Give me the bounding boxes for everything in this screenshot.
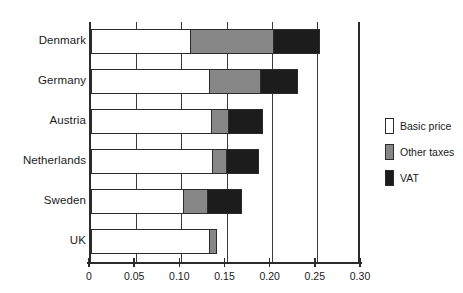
stacked-bar[interactable] (91, 29, 320, 54)
bar-row (91, 22, 358, 62)
y-axis-label-denmark: Denmark (2, 34, 86, 46)
x-axis-tick-label: 0.20 (259, 270, 279, 282)
legend-item[interactable]: Other taxes (385, 139, 463, 165)
x-axis-tick-label: 0.30 (350, 270, 370, 282)
bar-segment-basic-price (91, 109, 212, 134)
bar-row (91, 102, 358, 142)
legend-swatch-other-taxes (385, 144, 394, 160)
bar-segment-other-taxes (212, 149, 228, 174)
y-axis-label-austria: Austria (2, 114, 86, 126)
bar-segment-vat (228, 109, 263, 134)
x-axis-tick (88, 258, 90, 267)
plot-area (89, 22, 360, 262)
stacked-bar[interactable] (91, 229, 217, 254)
legend-item[interactable]: VAT (385, 165, 463, 191)
stacked-bar[interactable] (91, 69, 298, 94)
bar-row (91, 182, 358, 222)
y-axis-labels: DenmarkGermanyAustriaNetherlandsSwedenUK (0, 22, 86, 262)
bar-segment-vat (260, 69, 298, 94)
legend-swatch-basic-price (385, 118, 394, 134)
bar-segment-other-taxes (190, 29, 274, 54)
bar-segment-other-taxes (209, 229, 217, 254)
bar-segment-basic-price (91, 229, 210, 254)
x-axis-tick-label: 0 (86, 270, 92, 282)
stacked-bar[interactable] (91, 189, 242, 214)
x-axis-tick-label: 0.10 (169, 270, 189, 282)
stacked-bar[interactable] (91, 109, 263, 134)
bar-segment-other-taxes (209, 69, 261, 94)
bar-row (91, 222, 358, 262)
legend-label: Basic price (400, 120, 451, 132)
bar-segment-other-taxes (183, 189, 209, 214)
x-axis-tick (269, 258, 271, 267)
stacked-bar-chart: DenmarkGermanyAustriaNetherlandsSwedenUK… (0, 0, 463, 293)
x-axis-tick (359, 258, 361, 267)
legend-item[interactable]: Basic price (385, 113, 463, 139)
bar-segment-vat (273, 29, 320, 54)
bar-segment-basic-price (91, 29, 191, 54)
x-axis-tick (224, 258, 226, 267)
y-axis-label-sweden: Sweden (2, 194, 86, 206)
x-axis-tick-label: 0.15 (214, 270, 234, 282)
legend-label: VAT (400, 172, 419, 184)
bar-segment-basic-price (91, 189, 184, 214)
x-axis-tick (133, 258, 135, 267)
bar-segment-vat (207, 189, 242, 214)
chart-legend: Basic priceOther taxesVAT (385, 113, 463, 191)
bar-segment-vat (226, 149, 259, 174)
x-axis-tick-label: 0.25 (305, 270, 325, 282)
y-axis-label-uk: UK (2, 234, 86, 246)
stacked-bar[interactable] (91, 149, 259, 174)
legend-label: Other taxes (400, 146, 454, 158)
y-axis-label-netherlands: Netherlands (2, 154, 86, 166)
x-axis-tick (179, 258, 181, 267)
bar-segment-basic-price (91, 149, 213, 174)
bar-row (91, 62, 358, 102)
x-axis-tick-label: 0.05 (124, 270, 144, 282)
x-axis-tick (314, 258, 316, 267)
bar-segment-basic-price (91, 69, 210, 94)
y-axis-label-germany: Germany (2, 74, 86, 86)
legend-swatch-vat (385, 170, 394, 186)
bar-segment-other-taxes (211, 109, 229, 134)
bar-row (91, 142, 358, 182)
